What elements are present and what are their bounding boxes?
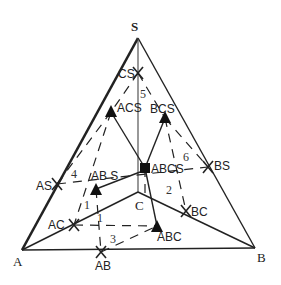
- region-number-2: 2: [166, 183, 172, 197]
- square-abcs-icon: [140, 163, 150, 173]
- line-abcs-acs: [111, 112, 145, 168]
- region-number-5: 5: [140, 87, 146, 101]
- point-label-ac: AC: [48, 218, 65, 232]
- point-label-bcs: BCS: [150, 102, 175, 116]
- line-a-c: [22, 192, 138, 250]
- point-label-abcs: ABCS: [151, 162, 184, 176]
- point-label-cs: CS: [118, 67, 135, 81]
- cross-ab-icon: [96, 246, 106, 258]
- triangle-abs-icon: [90, 183, 102, 195]
- line-abcs-bcs: [145, 118, 165, 168]
- point-label-ab: AB: [95, 259, 111, 273]
- point-label-abc: ABC: [157, 230, 182, 244]
- point-label-bs: BS: [214, 159, 230, 173]
- point-label-bc: BC: [191, 205, 208, 219]
- vertex-label-s: S: [131, 19, 138, 34]
- region-number-6: 6: [183, 150, 189, 164]
- line-abcs-abc: [145, 168, 157, 226]
- edge-a-b: [22, 248, 255, 250]
- point-label-acs: ACS: [117, 101, 142, 115]
- vertex-label-b: B: [257, 250, 266, 265]
- point-label-as: AS: [36, 179, 52, 193]
- phase-diagram: S A B CS ACS BCS ABCS C AS AB S BS AC AB…: [0, 0, 281, 285]
- vertex-label-a: A: [13, 254, 23, 269]
- region-number-1a: 1: [84, 198, 90, 212]
- region-number-4: 4: [71, 167, 77, 181]
- region-number-1b: 1: [97, 211, 103, 225]
- point-label-abs: AB S: [91, 169, 118, 183]
- point-label-c: C: [135, 198, 144, 213]
- region-number-3: 3: [110, 232, 116, 246]
